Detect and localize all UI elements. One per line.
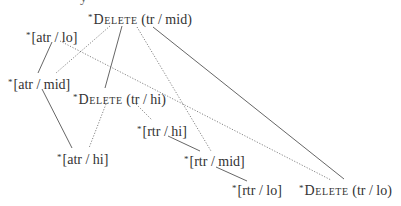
node-arg: (tr / hi) [126, 92, 166, 107]
violation-star: * [8, 77, 13, 87]
node-head: Delete [305, 183, 349, 198]
node-delete-tr-hi: *Delete (tr / hi) [73, 90, 166, 107]
node-arg: [rtr / mid] [190, 154, 245, 169]
violation-star: * [88, 12, 93, 22]
violation-star: * [184, 154, 189, 164]
node-rtr-mid: *[rtr / mid] [184, 152, 245, 169]
edge-rtr_mid-to-rtr_lo [216, 167, 247, 181]
violation-star: * [299, 183, 304, 193]
node-atr-hi: *[atr / hi] [57, 150, 108, 167]
node-arg: (tr / mid) [141, 12, 192, 27]
node-rtr-lo: *[rtr / lo] [232, 181, 282, 198]
node-arg: [rtr / lo] [238, 183, 282, 198]
violation-star: * [137, 124, 142, 134]
node-arg: [rtr / hi] [143, 124, 187, 139]
node-arg: [atr / lo] [32, 30, 78, 45]
edge-atr_mid-to-atr_hi [42, 89, 72, 148]
node-atr-mid: *[atr / mid] [8, 75, 70, 92]
node-atr-lo: *[atr / lo] [26, 28, 77, 45]
top-text-fragment: y [80, 0, 87, 5]
node-delete-tr-lo: *Delete (tr / lo) [299, 181, 392, 198]
violation-star: * [232, 183, 237, 193]
edge-del_tr_mid-to-del_tr_hi [105, 26, 122, 88]
violation-star: * [73, 92, 78, 102]
node-rtr-hi: *[rtr / hi] [137, 122, 187, 139]
node-arg: [atr / mid] [14, 77, 71, 92]
edge-del_tr_hi-to-atr_hi [89, 104, 106, 148]
node-arg: [atr / hi] [63, 152, 109, 167]
edge-del_tr_mid-to-del_tr_lo [153, 27, 344, 179]
violation-star: * [26, 30, 31, 40]
constraint-ranking-diagram: y *Delete (tr / mid) *[atr / lo] *[atr /… [0, 0, 401, 206]
violation-star: * [57, 152, 62, 162]
node-head: Delete [94, 12, 138, 27]
node-delete-tr-mid: *Delete (tr / mid) [88, 10, 192, 27]
edge-atr_lo-to-atr_mid [38, 42, 52, 73]
node-arg: (tr / lo) [352, 183, 392, 198]
node-head: Delete [79, 92, 123, 107]
